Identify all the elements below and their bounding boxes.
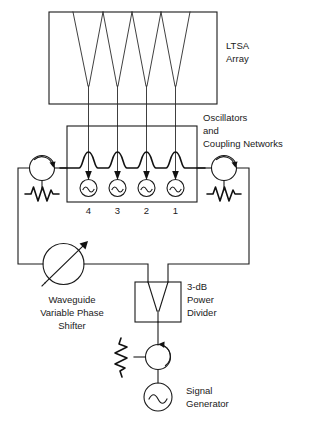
label-power-divider: 3-dB Power Divider [187, 281, 217, 318]
power-divider-label-line2: Power [187, 294, 214, 305]
termination-right [207, 187, 241, 201]
label-signal-generator: Signal Generator [186, 385, 229, 409]
power-divider-label-line3: Divider [187, 307, 217, 318]
arrowhead [85, 171, 92, 180]
oscillator-coupling-box [67, 126, 197, 202]
label-phase-shifter: Waveguide Variable Phase Shifter [40, 294, 104, 331]
oscillator-number: 1 [173, 205, 178, 216]
oscillators-label-line3: Coupling Networks [203, 138, 283, 149]
oscillators-label-line1: Oscillators [203, 112, 248, 123]
phase-shifter-label-line3: Shifter [58, 320, 85, 331]
arrowhead [143, 171, 150, 180]
phase-shifter-label-line2: Variable Phase [40, 307, 104, 318]
power-divider-label-line1: 3-dB [187, 281, 207, 292]
termination-bottom [115, 338, 127, 377]
phase-shifter-label-line1: Waveguide [48, 294, 95, 305]
oscillator-symbol [80, 180, 97, 197]
oscillators-label-line2: and [203, 125, 219, 136]
power-divider [135, 282, 181, 322]
signal-generator-label-line1: Signal [186, 385, 212, 396]
oscillator-number: 3 [115, 205, 120, 216]
circulator-bottom [134, 342, 171, 370]
feed-arrowhead-group [85, 171, 179, 180]
ltsa-array-label-line1: LTSA [226, 40, 250, 51]
oscillator-number: 2 [144, 205, 149, 216]
ltsa-feed-lines [89, 86, 176, 173]
label-ltsa-array: LTSA Array [226, 40, 250, 64]
arrowhead [114, 171, 121, 180]
signal-generator-label-line2: Generator [186, 398, 229, 409]
block-diagram-figure: 4 3 2 1 [0, 0, 316, 424]
diagram-canvas: 4 3 2 1 [0, 0, 316, 424]
ltsa-array-label-line2: Array [226, 53, 249, 64]
oscillator-number-group: 4 3 2 1 [86, 205, 178, 216]
signal-generator [144, 383, 172, 411]
oscillator-symbol [109, 180, 126, 197]
arrowhead [172, 171, 179, 180]
ltsa-element [161, 12, 190, 86]
ltsa-element-group [73, 12, 190, 86]
circulator-right [197, 156, 238, 191]
coupling-network-line [60, 152, 205, 168]
ltsa-array-box [49, 12, 217, 104]
termination-left [25, 187, 59, 201]
variable-phase-shifter [42, 241, 88, 286]
ltsa-element [103, 12, 132, 86]
ltsa-element [73, 12, 103, 86]
oscillator-number: 4 [86, 205, 91, 216]
oscillator-group [80, 180, 184, 197]
ltsa-element [132, 12, 161, 86]
circulator-left [30, 156, 68, 191]
label-oscillators-coupling: Oscillators and Coupling Networks [203, 112, 283, 149]
oscillator-symbol [138, 180, 155, 197]
oscillator-symbol [167, 180, 184, 197]
